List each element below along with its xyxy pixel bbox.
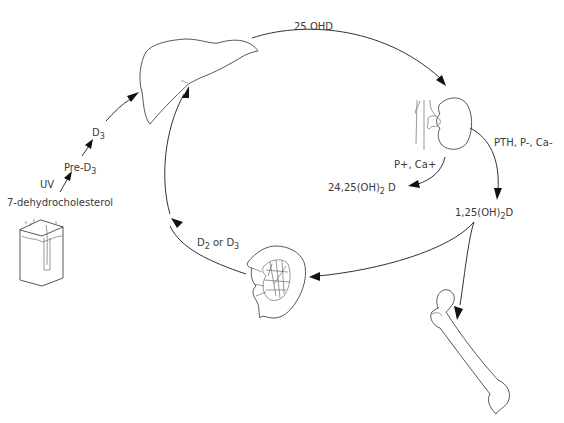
label-d3-dietary: D <box>226 237 234 248</box>
label-pre-d3-base: Pre-D <box>64 162 91 173</box>
arrow-liver-kidney <box>252 29 440 78</box>
kidney-illustration <box>415 98 471 150</box>
arrowhead-active-bone <box>454 306 463 320</box>
label-uv: UV <box>40 180 54 190</box>
intestine-illustration <box>247 246 305 318</box>
label-d2-or-d3: D2 or D3 <box>197 238 239 248</box>
arrowhead-kidney-active <box>494 188 502 200</box>
label-1-25-oh2d: 1,25(OH)2D <box>455 208 513 218</box>
label-kidney-regulators-up: PTH, P-, Ca- <box>494 138 553 148</box>
arrow-pred3-d3 <box>82 146 89 156</box>
label-d3-sub: 3 <box>100 132 105 141</box>
label-or: or <box>210 237 227 248</box>
arrowhead-active-intestine <box>309 272 320 281</box>
label-7-dehydrocholesterol: 7-dehydrocholesterol <box>7 198 113 208</box>
arrow-uv <box>60 178 68 192</box>
label-pre-d3: Pre-D3 <box>64 163 96 173</box>
arrowhead-kidney-inactive <box>408 180 420 188</box>
arrowhead-to-liver <box>182 86 189 98</box>
label-d2: D <box>197 237 205 248</box>
label-24-25-post: D <box>385 182 396 193</box>
bone-illustration <box>431 290 510 414</box>
label-kidney-regulators-down: P+, Ca+ <box>394 160 436 170</box>
label-pre-d3-sub: 3 <box>91 167 96 176</box>
arrow-d3-liver <box>106 98 132 121</box>
arrow-intestine-liver-upper <box>165 94 184 214</box>
liver-illustration <box>140 39 258 124</box>
arrowhead-intestine-to-circle <box>171 218 183 228</box>
label-1-25-post: D <box>506 207 514 218</box>
label-24-25-oh2d: 24,25(OH)2 D <box>328 183 396 193</box>
arrow-active-bone <box>460 222 474 305</box>
label-d3: D3 <box>92 128 105 138</box>
arrowhead-pred3-d3 <box>85 139 93 149</box>
arrowhead-liver-kidney <box>436 75 446 86</box>
arrow-active-intestine <box>318 222 474 276</box>
label-d3-dietary-sub: 3 <box>234 242 239 251</box>
label-25-ohd: 25 OHD <box>294 22 333 32</box>
label-d3-base: D <box>92 127 100 138</box>
skin-illustration <box>20 219 63 286</box>
label-24-25-pre: 24,25(OH) <box>328 182 380 193</box>
label-1-25-pre: 1,25(OH) <box>455 207 500 218</box>
